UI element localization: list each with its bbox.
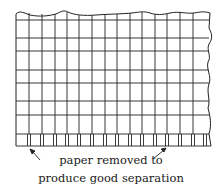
torn-right-edge — [208, 13, 212, 146]
grid-lines — [16, 12, 211, 146]
caption-line-1: paper removed to — [0, 153, 222, 167]
torn-top-edge — [16, 11, 210, 16]
caption-line-2: produce good separation — [0, 171, 222, 185]
tab-row — [28, 134, 207, 146]
